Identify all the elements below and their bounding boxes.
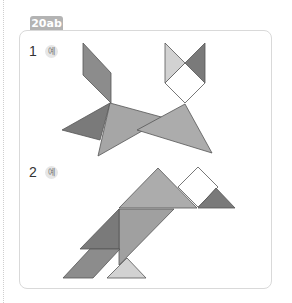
cat-large-triangle-2: [137, 104, 212, 153]
tangram-bird-figure: [63, 167, 235, 278]
bird-wing-dark-triangle: [80, 209, 119, 249]
bird-foot-light-triangle: [107, 258, 146, 278]
bird-body-large-triangle: [119, 209, 174, 265]
tangram-cat-figure: [62, 43, 212, 156]
cat-tail-parallelogram: [83, 43, 111, 103]
tangram-figures: [0, 0, 292, 303]
